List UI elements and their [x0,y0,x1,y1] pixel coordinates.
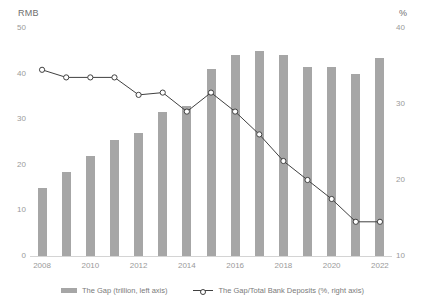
right-axis-tick-30: 30 [396,99,414,108]
x-axis-tick-2008: 2008 [33,261,51,270]
data-point-2009 [64,75,69,80]
line-marker-swatch-icon [193,287,213,294]
x-axis-tick-2012: 2012 [130,261,148,270]
data-point-2021 [353,219,358,224]
data-point-2008 [39,67,44,72]
x-axis-tick-2010: 2010 [81,261,99,270]
left-axis-tick-10: 10 [8,205,26,214]
circle-marker-icon [200,289,206,295]
chart-container: RMB % 50403020100 40302010 2008201020122… [0,0,425,308]
data-point-2011 [112,75,117,80]
legend-label-gap-ratio: The Gap/Total Bank Deposits (%, right ax… [218,286,363,295]
data-point-2014 [184,109,189,114]
x-axis-tick-2020: 2020 [323,261,341,270]
right-axis-tick-20: 20 [396,175,414,184]
data-point-2017 [257,132,262,137]
data-point-2012 [136,92,141,97]
data-point-2015 [208,90,213,95]
line-series-layer [30,28,392,256]
x-axis-tick-2016: 2016 [226,261,244,270]
legend-item-gap-ratio: The Gap/Total Bank Deposits (%, right ax… [193,286,363,295]
x-axis-tick-2014: 2014 [178,261,196,270]
x-axis-tick-2018: 2018 [274,261,292,270]
right-axis-tick-40: 40 [396,23,414,32]
left-axis-tick-40: 40 [8,69,26,78]
data-point-2018 [281,158,286,163]
data-point-2010 [88,75,93,80]
left-axis-tick-20: 20 [8,160,26,169]
x-axis-line [30,256,392,257]
data-point-2019 [305,177,310,182]
legend-item-the-gap: The Gap (trillion, left axis) [61,286,167,295]
right-axis-unit-label: % [399,8,407,18]
bar-swatch-icon [61,288,77,293]
x-axis-tick-2022: 2022 [371,261,389,270]
right-axis-tick-10: 10 [396,251,414,260]
left-axis-tick-30: 30 [8,114,26,123]
data-point-2020 [329,196,334,201]
left-axis-tick-50: 50 [8,23,26,32]
left-axis-unit-label: RMB [18,8,39,18]
data-point-2013 [160,90,165,95]
data-point-2022 [377,219,382,224]
data-point-2016 [233,109,238,114]
legend-label-the-gap: The Gap (trillion, left axis) [82,286,167,295]
left-axis-tick-0: 0 [8,251,26,260]
chart-legend: The Gap (trillion, left axis) The Gap/To… [0,286,425,295]
